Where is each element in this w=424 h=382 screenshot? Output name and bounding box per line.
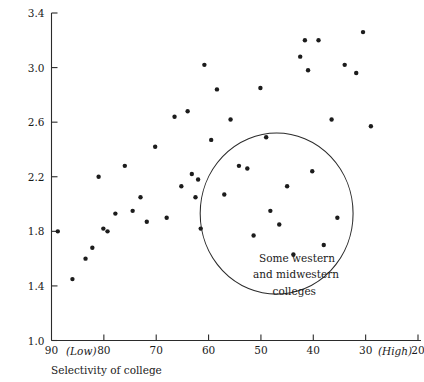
data-point <box>303 38 307 42</box>
data-point <box>145 220 149 224</box>
data-point <box>310 169 314 173</box>
data-point <box>105 229 109 233</box>
data-point <box>258 86 262 90</box>
y-axis-tick-labels: 1.01.41.82.22.63.03.4 <box>28 7 45 347</box>
x-tick-label-70: 70 <box>150 344 163 356</box>
y-tick-label-3.0: 3.0 <box>28 62 45 74</box>
scatter-chart-figure: 1.01.41.82.22.63.03.4 9080706050403020 (… <box>0 0 424 382</box>
data-point <box>369 124 373 128</box>
x-tick-label-50: 50 <box>254 344 267 356</box>
annotation-line-3: colleges <box>273 285 316 297</box>
data-point <box>237 164 241 168</box>
x-axis-title: Selectivity of college <box>51 364 162 376</box>
x-tick-label-90: 90 <box>45 344 58 356</box>
data-point <box>264 135 268 139</box>
data-point <box>316 38 320 42</box>
data-point <box>343 63 347 67</box>
data-point <box>185 109 189 113</box>
data-point <box>172 115 176 119</box>
data-point <box>329 117 333 121</box>
x-tick-label-60: 60 <box>202 344 215 356</box>
y-tick-label-2.6: 2.6 <box>28 116 45 128</box>
scatter-plot-canvas: 1.01.41.82.22.63.03.4 9080706050403020 (… <box>0 0 424 382</box>
x-axis-low-label: (Low) <box>66 345 96 357</box>
annotation-line-1: Some western <box>259 252 335 264</box>
data-point <box>96 175 100 179</box>
x-tick-label-80: 80 <box>97 344 110 356</box>
data-point <box>113 211 117 215</box>
data-point <box>306 68 310 72</box>
x-axis-high-label: (High) <box>378 345 412 357</box>
y-axis-ticks <box>52 13 58 341</box>
data-points-group <box>56 30 373 281</box>
data-point <box>193 195 197 199</box>
y-tick-label-3.4: 3.4 <box>28 7 45 19</box>
y-tick-label-1.0: 1.0 <box>28 335 45 347</box>
data-point <box>251 233 255 237</box>
data-point <box>268 209 272 213</box>
data-point <box>164 215 168 219</box>
y-tick-label-2.2: 2.2 <box>28 171 45 183</box>
data-point <box>123 164 127 168</box>
data-point <box>215 87 219 91</box>
data-point <box>190 172 194 176</box>
data-point <box>130 209 134 213</box>
data-point <box>138 195 142 199</box>
data-point <box>245 166 249 170</box>
data-point <box>222 192 226 196</box>
data-point <box>56 229 60 233</box>
data-point <box>228 117 232 121</box>
x-tick-label-40: 40 <box>307 344 320 356</box>
data-point <box>285 184 289 188</box>
data-point <box>335 215 339 219</box>
data-point <box>277 222 281 226</box>
cluster-annotation-text: Some western and midwestern colleges <box>253 252 339 297</box>
data-point <box>101 226 105 230</box>
data-point <box>361 30 365 34</box>
x-axis-tick-labels: 9080706050403020 <box>45 344 424 356</box>
x-axis-ticks <box>104 335 418 341</box>
data-point <box>70 277 74 281</box>
x-tick-label-20: 20 <box>411 344 424 356</box>
y-tick-label-1.8: 1.8 <box>28 225 45 237</box>
data-point <box>90 246 94 250</box>
x-tick-label-30: 30 <box>359 344 372 356</box>
data-point <box>153 145 157 149</box>
data-point <box>202 63 206 67</box>
data-point <box>196 177 200 181</box>
y-tick-label-1.4: 1.4 <box>28 280 45 292</box>
annotation-line-2: and midwestern <box>253 268 339 280</box>
plot-axes <box>52 13 422 341</box>
data-point <box>322 243 326 247</box>
data-point <box>298 54 302 58</box>
data-point <box>209 138 213 142</box>
data-point <box>179 184 183 188</box>
data-point <box>354 71 358 75</box>
data-point <box>83 256 87 260</box>
data-point <box>199 226 203 230</box>
